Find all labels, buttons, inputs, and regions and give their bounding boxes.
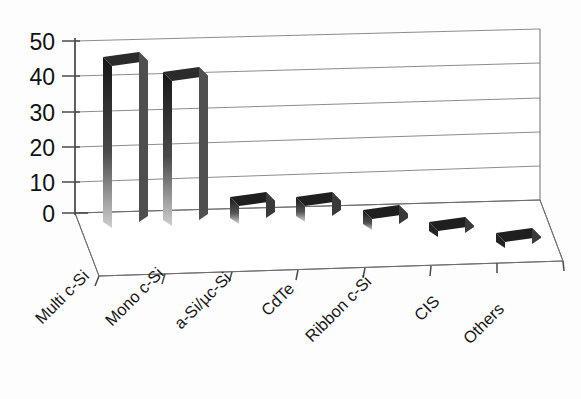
x-label-others: Others [459,299,507,347]
x-label-multi-c-si: Multi c-Si [31,266,92,327]
y-tick-label-40: 40 [29,64,55,90]
x-label-ribbon-c-si: Ribbon c-Si [301,272,374,345]
y-tick-label-0: 0 [42,201,55,227]
x-label-a-si-uc-si: a-Si/µc-Si [170,269,234,333]
bar-chart: 50 40 30 20 10 0 [0,0,581,399]
x-label-cdte: CdTe [257,279,297,319]
y-tick-label-20: 20 [29,135,55,161]
y-tick-label-10: 10 [29,170,55,196]
y-tick-label-30: 30 [29,100,55,126]
chart-container: 50 40 30 20 10 0 [0,0,581,399]
x-label-cis: CIS [410,292,442,324]
chart-floor [75,200,563,276]
y-tick-label-50: 50 [29,29,55,55]
y-axis-tick-labels: 50 40 30 20 10 0 [29,29,55,227]
